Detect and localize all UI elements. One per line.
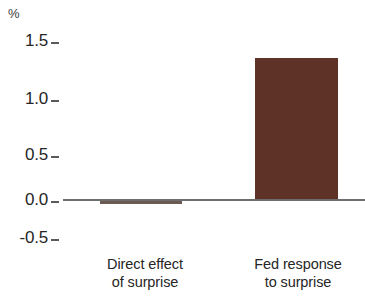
y-tick-label-5: -0.5 — [0, 229, 48, 246]
category-label-line2: to surprise — [228, 274, 365, 292]
y-tick-mark-5 — [51, 239, 59, 241]
y-tick-label-2: 1.0 — [0, 90, 48, 107]
bar-fed-response — [255, 58, 338, 199]
y-tick-mark-4 — [51, 201, 59, 203]
category-label-line1: Fed response — [254, 256, 341, 272]
bar-direct-effect — [100, 201, 182, 204]
category-label-line1: Direct effect — [107, 256, 183, 272]
bar-chart: % 1.5 1.0 0.5 0.0 -0.5 Direct effect of … — [0, 0, 365, 300]
category-label-direct-effect: Direct effect of surprise — [75, 256, 215, 291]
y-tick-label-4: 0.0 — [0, 191, 48, 208]
y-axis-labels: 1.5 1.0 0.5 0.0 -0.5 — [0, 0, 48, 300]
y-tick-label-3: 0.5 — [0, 146, 48, 163]
plot-area — [63, 0, 365, 300]
y-tick-mark-2 — [51, 100, 59, 102]
y-tick-mark-3 — [51, 156, 59, 158]
y-tick-label-1: 1.5 — [0, 32, 48, 49]
category-label-line2: of surprise — [75, 274, 215, 292]
category-label-fed-response: Fed response to surprise — [228, 256, 365, 291]
y-tick-mark-1 — [51, 42, 59, 44]
